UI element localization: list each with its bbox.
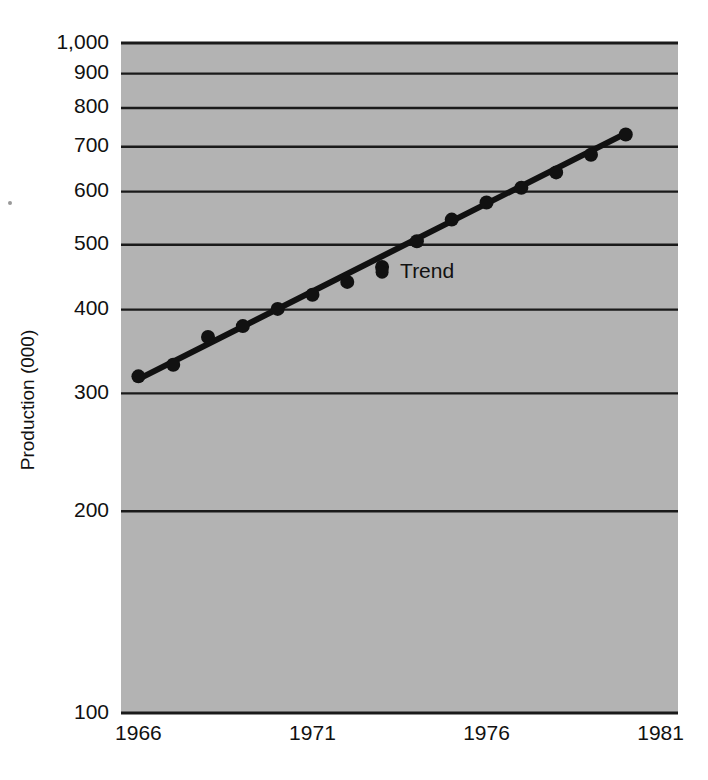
data-point [340, 275, 354, 289]
data-point [514, 181, 528, 195]
x-tick-1971: 1971 [289, 721, 336, 744]
data-point [166, 358, 180, 372]
y-tick-1000: 1,000 [56, 30, 109, 53]
data-point [271, 302, 285, 316]
y-tick-800: 800 [74, 94, 109, 117]
data-point [305, 288, 319, 302]
data-point [201, 330, 215, 344]
trend-annotation-marker [376, 266, 389, 279]
data-point [584, 148, 598, 162]
y-tick-300: 300 [74, 380, 109, 403]
y-tick-500: 500 [74, 231, 109, 254]
data-point [549, 165, 563, 179]
y-tick-400: 400 [74, 296, 109, 319]
trend-annotation-label: Trend [400, 259, 454, 282]
x-tick-1966: 1966 [115, 721, 162, 744]
y-tick-700: 700 [74, 133, 109, 156]
data-point [131, 369, 145, 383]
scan-speck [8, 201, 12, 205]
y-tick-200: 200 [74, 498, 109, 521]
data-point [619, 128, 633, 142]
y-axis-title: Production (000) [17, 330, 38, 470]
data-point [410, 234, 424, 248]
y-tick-600: 600 [74, 178, 109, 201]
x-tick-1981: 1981 [637, 721, 684, 744]
x-tick-1976: 1976 [463, 721, 510, 744]
data-point [236, 319, 250, 333]
y-tick-100: 100 [74, 700, 109, 723]
data-point [445, 213, 459, 227]
production-trend-chart: 1,000900800700600500400300200100 1966197… [0, 0, 708, 780]
plot-area-background [121, 43, 678, 713]
data-point [480, 196, 494, 210]
y-tick-900: 900 [74, 60, 109, 83]
